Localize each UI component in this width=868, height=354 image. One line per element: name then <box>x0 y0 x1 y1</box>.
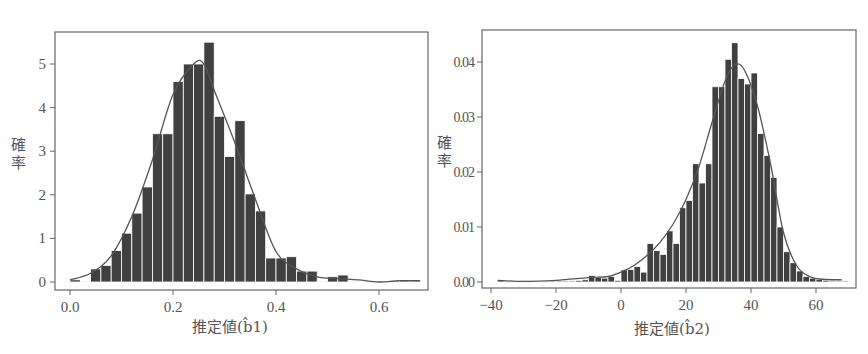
histogram-bar-b1 <box>70 280 80 282</box>
histogram-bar-b2 <box>836 281 843 282</box>
histogram-bar-b2 <box>660 255 667 283</box>
bars-b1 <box>70 42 420 282</box>
histogram-bar-b2 <box>667 231 674 282</box>
x-tick-label: 0.6 <box>370 299 389 315</box>
histogram-bar-b1 <box>214 116 224 282</box>
y-tick-label: 0.03 <box>454 110 476 125</box>
y-tick-label: 0 <box>39 274 47 290</box>
x-tick-label: 20 <box>679 297 694 313</box>
histogram-bar-b1 <box>225 156 235 282</box>
histogram-bar-b1 <box>204 42 214 282</box>
histogram-bar-b1 <box>132 213 142 282</box>
x-axis-b2: −40−200204060 <box>479 288 823 313</box>
y-tick-label: 0.04 <box>454 55 476 70</box>
x-tick-label: −20 <box>544 297 567 313</box>
histogram-bar-b1 <box>142 187 152 282</box>
x-axis-label-b2: 推定値(b̂2) <box>634 319 710 338</box>
histogram-bar-b2 <box>732 43 739 282</box>
histogram-b2: −40−200204060 0.000.010.020.030.04 確率 推定… <box>437 30 857 338</box>
histogram-bar-b2 <box>569 281 576 282</box>
histogram-bar-b2 <box>719 87 726 282</box>
histogram-bar-b2 <box>764 156 771 283</box>
histogram-bar-b2 <box>829 281 836 282</box>
histogram-bar-b1 <box>245 194 255 282</box>
histogram-bar-b1 <box>194 64 204 282</box>
y-tick-label: 5 <box>39 56 47 72</box>
y-axis-label-b2: 確率 <box>437 134 452 170</box>
histogram-bar-b1 <box>348 281 358 282</box>
x-tick-label: 0.4 <box>267 299 286 315</box>
histogram-bar-b2 <box>576 280 583 282</box>
histogram-bar-b2 <box>758 134 765 283</box>
x-axis-b1: 0.00.20.40.6 <box>61 290 389 315</box>
x-tick-label: −40 <box>479 297 502 313</box>
histogram-bar-b2 <box>615 280 622 282</box>
histogram-bar-b2 <box>680 208 687 282</box>
histogram-bar-b2 <box>595 278 602 282</box>
histogram-bar-b1 <box>101 265 111 282</box>
y-axis-label-b1: 確率 <box>11 136 26 172</box>
x-tick-label: 0 <box>617 297 625 313</box>
histogram-bar-b2 <box>563 281 570 282</box>
histogram-bar-b2 <box>634 267 641 282</box>
histogram-bar-b2 <box>738 79 745 283</box>
histogram-b1: 0.00.20.40.6 012345 確率 推定値(b̂1) <box>11 32 429 336</box>
x-tick-label: 60 <box>809 297 824 313</box>
histogram-bar-b1 <box>111 251 121 282</box>
histogram-bar-b1 <box>173 81 183 282</box>
histogram-bar-b1 <box>317 281 327 282</box>
histogram-figure: 0.00.20.40.6 012345 確率 推定値(b̂1) −40−2002… <box>0 0 868 354</box>
histogram-bar-b2 <box>777 227 784 282</box>
histogram-bar-b2 <box>647 244 654 283</box>
histogram-bar-b2 <box>784 252 791 282</box>
histogram-bar-b2 <box>823 280 830 282</box>
histogram-bar-b1 <box>286 257 296 282</box>
histogram-bar-b2 <box>654 251 661 282</box>
histogram-bar-b2 <box>706 164 713 282</box>
y-axis-b1: 012345 <box>39 56 56 290</box>
histogram-bar-b2 <box>608 277 615 283</box>
y-tick-label: 0.02 <box>454 165 476 180</box>
histogram-bar-b2 <box>803 277 810 283</box>
histogram-bar-b2 <box>745 84 752 282</box>
histogram-bar-b2 <box>790 263 797 282</box>
histogram-bar-b2 <box>589 275 596 282</box>
histogram-bar-b2 <box>842 281 849 282</box>
histogram-bar-b1 <box>80 281 90 282</box>
histogram-bar-b2 <box>673 244 680 283</box>
y-axis-b2: 0.000.010.020.030.04 <box>454 55 483 290</box>
histogram-bar-b2 <box>628 269 635 282</box>
histogram-bar-b2 <box>602 278 609 282</box>
y-tick-label: 0.01 <box>454 220 476 235</box>
histogram-bar-b1 <box>183 64 193 282</box>
histogram-bar-b2 <box>686 201 693 282</box>
y-tick-label: 0.00 <box>454 275 476 290</box>
histogram-bar-b1 <box>122 233 132 282</box>
y-tick-label: 3 <box>39 143 47 159</box>
histogram-bar-b2 <box>556 281 563 282</box>
histogram-bar-b2 <box>582 280 589 282</box>
bars-b2 <box>498 43 849 283</box>
histogram-bar-b2 <box>699 183 706 282</box>
x-axis-label-b1: 推定値(b̂1) <box>192 317 268 336</box>
y-tick-label: 2 <box>39 187 47 203</box>
histogram-bar-b2 <box>712 87 719 282</box>
x-tick-label: 0.2 <box>164 299 183 315</box>
histogram-bar-b1 <box>266 258 276 282</box>
histogram-bar-b1 <box>163 134 173 282</box>
y-tick-label: 4 <box>39 100 47 116</box>
x-tick-label: 0.0 <box>61 299 80 315</box>
y-tick-label: 1 <box>39 230 47 246</box>
histogram-bar-b2 <box>641 272 648 282</box>
histogram-bar-b2 <box>725 59 732 282</box>
x-tick-label: 40 <box>744 297 759 313</box>
